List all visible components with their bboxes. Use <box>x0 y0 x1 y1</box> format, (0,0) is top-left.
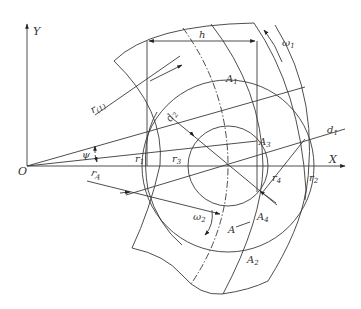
d1-label: d1 <box>327 124 338 137</box>
r4-label: r4 <box>272 172 281 185</box>
origin-label: O <box>18 165 27 178</box>
kinematics-diagram: Y X O h ω1 ω2 A1 A3 A4 A A2 d1 d2 r(1) r… <box>0 0 361 309</box>
r3-label: r3 <box>172 153 182 166</box>
A3-label: A3 <box>258 136 271 149</box>
psi-label: ψ <box>82 149 90 160</box>
r-phi-label: r(1) <box>88 98 107 117</box>
h-label: h <box>199 29 205 40</box>
y-axis-label: Y <box>33 25 42 38</box>
omega1-arrow <box>264 30 282 62</box>
omega1-label: ω1 <box>282 37 295 50</box>
d2-label: d2 <box>163 108 180 125</box>
A4-label: A4 <box>256 211 269 224</box>
A1-label: A1 <box>225 73 238 86</box>
coordinate-axes <box>27 24 345 166</box>
x-axis-label: X <box>328 153 338 166</box>
omega2-label: ω2 <box>193 211 206 224</box>
omega2-arrow <box>205 210 212 235</box>
A-label: A <box>227 224 235 235</box>
rA-label: rA <box>90 167 103 182</box>
A2-label: A2 <box>246 254 259 267</box>
